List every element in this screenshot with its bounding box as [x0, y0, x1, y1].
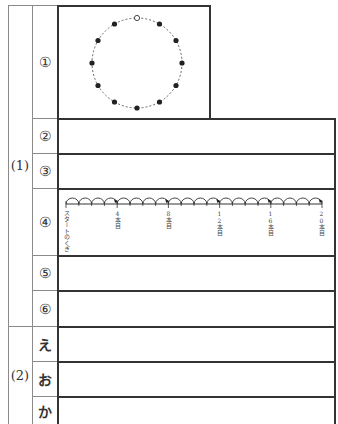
dashed-circle: [92, 18, 182, 108]
row-label-q6: ⑥: [33, 291, 57, 326]
tick-label-8: 8本目: [165, 210, 171, 229]
answer-box-o[interactable]: [59, 363, 334, 396]
section-label-1: (1): [8, 5, 32, 326]
answer-box-q1-figure[interactable]: [59, 7, 209, 118]
answer-box-q4-number-line[interactable]: スタートのくぎ 4本目 8本目 12本目 16本目 20本目: [59, 190, 334, 255]
row-label-e: え: [33, 327, 57, 361]
answer-box-q6[interactable]: [59, 292, 334, 326]
filled-point-icon: [89, 60, 94, 65]
answer-box-ka[interactable]: [59, 398, 334, 424]
number-line-figure: [59, 190, 334, 255]
row-label-q5: ⑤: [33, 256, 57, 290]
filled-point-icon: [157, 21, 162, 26]
tick-label-12: 12本目: [216, 210, 222, 236]
answer-box-q3[interactable]: [59, 155, 334, 188]
filled-point-icon: [95, 83, 100, 88]
filled-point-icon: [95, 38, 100, 43]
row-label-q4: ④: [33, 189, 57, 255]
filled-point-icon: [112, 21, 117, 26]
open-point-icon: [134, 15, 139, 20]
row-label-o: お: [33, 362, 57, 396]
tick-label-16: 16本目: [267, 210, 273, 236]
filled-point-icon: [134, 105, 139, 110]
answer-table-right-border: [334, 118, 336, 424]
start-nail-label: スタートのくぎ: [63, 210, 69, 252]
filled-point-icon: [173, 83, 178, 88]
row-label-q3: ③: [33, 154, 57, 188]
filled-point-icon: [157, 99, 162, 104]
hop-arcs: [66, 198, 322, 204]
answer-box-e[interactable]: [59, 328, 334, 361]
filled-point-icon: [112, 99, 117, 104]
row-label-q2: ②: [33, 119, 57, 153]
filled-point-icon: [179, 60, 184, 65]
answer-box-q5[interactable]: [59, 257, 334, 290]
tick-label-20: 20本目: [318, 210, 324, 236]
row-label-ka: か: [33, 397, 57, 424]
row-label-q1: ①: [33, 6, 57, 118]
section-label-2: (2): [8, 326, 32, 424]
answer-box-q2[interactable]: [59, 120, 334, 153]
circle-dots-figure: [59, 7, 209, 118]
filled-point-icon: [173, 38, 178, 43]
figure-box-right-border: [209, 5, 211, 119]
tick-label-4: 4本目: [114, 210, 120, 229]
